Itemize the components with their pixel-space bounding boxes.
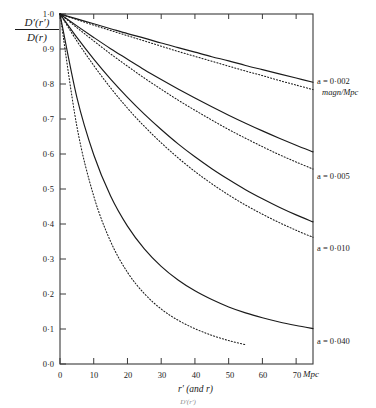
data-curve <box>60 14 313 237</box>
data-curve <box>60 14 313 329</box>
curve-layer <box>60 14 313 345</box>
plot-canvas <box>0 0 376 408</box>
data-curve <box>60 14 313 169</box>
figure-root: D′(r′) D(r) 1·0 0·9 0·8 0·7 0·6 0·5 0·4 … <box>0 0 376 408</box>
data-curve <box>60 14 246 345</box>
data-curve <box>60 14 313 222</box>
axis-layer <box>60 14 313 364</box>
data-curve <box>60 14 313 152</box>
plot-frame <box>60 14 313 364</box>
